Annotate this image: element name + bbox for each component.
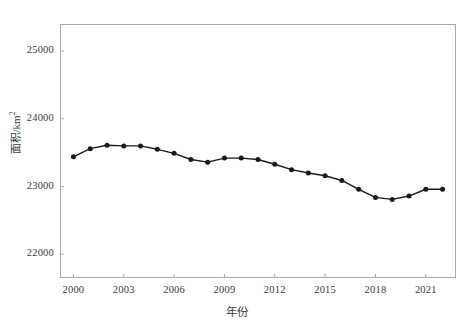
y-axis-tick-label: 25000 — [10, 44, 54, 55]
x-axis-tick-label: 2021 — [406, 284, 446, 295]
y-axis-tick-label: 23000 — [10, 180, 54, 191]
y-axis-tick-label: 22000 — [10, 247, 54, 258]
x-axis-tick-label: 2009 — [204, 284, 244, 295]
chart-figure: 22000230002400025000 2000200320062009201… — [0, 0, 473, 328]
y-axis-title-base: 面积/km — [10, 115, 22, 154]
y-axis-title: 面积/km2 — [7, 88, 23, 178]
x-axis-tick-label: 2012 — [255, 284, 295, 295]
x-axis-tick-label: 2003 — [104, 284, 144, 295]
x-axis-tick-label: 2018 — [355, 284, 395, 295]
y-axis-title-exponent: 2 — [8, 112, 17, 116]
x-axis-tick-label: 2006 — [154, 284, 194, 295]
x-axis-tick-label: 2015 — [305, 284, 345, 295]
x-axis-tick-label: 2000 — [53, 284, 93, 295]
x-axis-title: 年份 — [0, 303, 473, 319]
plot-area-frame — [60, 24, 456, 278]
